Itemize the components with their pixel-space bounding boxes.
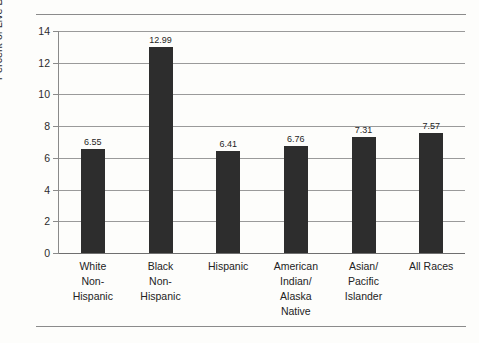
bar-value-label: 6.41 (198, 140, 258, 149)
bar-value-label: 7.31 (334, 126, 394, 135)
gridline-6 (59, 158, 465, 159)
x-axis-category-label: BlackNon-Hispanic (124, 259, 198, 304)
gridline-4 (59, 190, 465, 191)
category-label-line: Black (124, 259, 198, 274)
category-label-line: Hispanic (56, 289, 130, 304)
category-label-line: All Races (394, 259, 468, 274)
y-tick-label-14: 14 (26, 26, 50, 37)
y-tick-label-0: 0 (26, 248, 50, 259)
category-label-line: Non- (124, 274, 198, 289)
category-label-line: American (259, 259, 333, 274)
bar (149, 47, 173, 253)
y-tick-label-6: 6 (26, 153, 50, 164)
category-label-line: Pacific (327, 274, 401, 289)
gridline-14 (59, 31, 465, 32)
y-tick-label-12: 12 (26, 57, 50, 68)
category-label-line: Non- (56, 274, 130, 289)
x-axis-category-label: All Races (394, 259, 468, 274)
y-tick-label-4: 4 (26, 184, 50, 195)
y-tick-label-8: 8 (26, 121, 50, 132)
category-label-line: Islander (327, 289, 401, 304)
category-label-line: Asian/ (327, 259, 401, 274)
category-label-line: Hispanic (124, 289, 198, 304)
bar (352, 137, 376, 253)
bar (419, 133, 443, 253)
x-axis-category-label: Asian/PacificIslander (327, 259, 401, 304)
figure-bottom-rule (36, 326, 466, 327)
x-axis-category-label: Hispanic (191, 259, 265, 274)
category-label-line: Alaska (259, 289, 333, 304)
category-label-line: White (56, 259, 130, 274)
y-axis-title: Percent of Live Births (0, 0, 4, 80)
gridline-12 (59, 63, 465, 64)
bar-value-label: 6.76 (266, 135, 326, 144)
category-label-line: Indian/ (259, 274, 333, 289)
category-label-line: Native (259, 304, 333, 319)
bar (284, 146, 308, 253)
plot-area: 6.5512.996.416.767.317.57 (59, 31, 465, 253)
gridline-2 (59, 221, 465, 222)
gridline-10 (59, 94, 465, 95)
bar-value-label: 12.99 (131, 36, 191, 45)
x-axis-category-label: AmericanIndian/AlaskaNative (259, 259, 333, 319)
gridline-0 (59, 253, 465, 254)
x-axis-category-label: WhiteNon-Hispanic (56, 259, 130, 304)
bar (81, 149, 105, 253)
y-tick-label-10: 10 (26, 89, 50, 100)
bar-value-label: 6.55 (63, 138, 123, 147)
figure-top-rule (36, 14, 466, 15)
bar-chart-figure: Percent of Live Births 14121086420 6.551… (0, 0, 479, 343)
bar (216, 151, 240, 253)
bar-value-label: 7.57 (401, 122, 461, 131)
y-tick-label-2: 2 (26, 216, 50, 227)
category-label-line: Hispanic (191, 259, 265, 274)
